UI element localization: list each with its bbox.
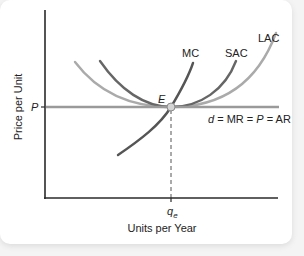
chart-card: Price per Unit P E MC SAC LAC d = MR = P… — [0, 0, 292, 244]
lac-label: LAC — [258, 32, 279, 44]
demand-ar: = AR — [264, 113, 291, 125]
y-axis-label: Price per Unit — [12, 74, 24, 141]
qe-tick-label: qe — [167, 205, 178, 220]
chart-svg: Price per Unit P E MC SAC LAC d = MR = P… — [0, 0, 304, 256]
demand-mr: = MR = — [214, 113, 256, 125]
equilibrium-point — [167, 103, 175, 111]
p-tick-label: P — [31, 101, 39, 113]
e-point-label: E — [158, 93, 166, 105]
mc-curve — [118, 63, 193, 155]
demand-label: d = MR = P = AR — [208, 113, 291, 125]
x-axis-label: Units per Year — [127, 222, 196, 234]
mc-label: MC — [182, 47, 199, 59]
sac-label: SAC — [225, 47, 248, 59]
